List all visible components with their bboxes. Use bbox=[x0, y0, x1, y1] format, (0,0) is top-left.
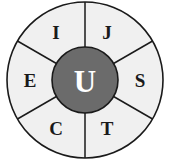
sector-label-j: J bbox=[102, 22, 112, 43]
hub-label: U bbox=[74, 64, 96, 99]
sector-label-e: E bbox=[24, 70, 37, 91]
sector-label-t: T bbox=[101, 118, 114, 139]
sector-label-c: C bbox=[49, 118, 63, 139]
sector-label-i: I bbox=[52, 22, 59, 43]
segmented-wheel-diagram: I J S T C E U bbox=[0, 0, 170, 160]
wheel-canvas: I J S T C E U bbox=[0, 0, 170, 160]
sector-label-s: S bbox=[135, 70, 146, 91]
